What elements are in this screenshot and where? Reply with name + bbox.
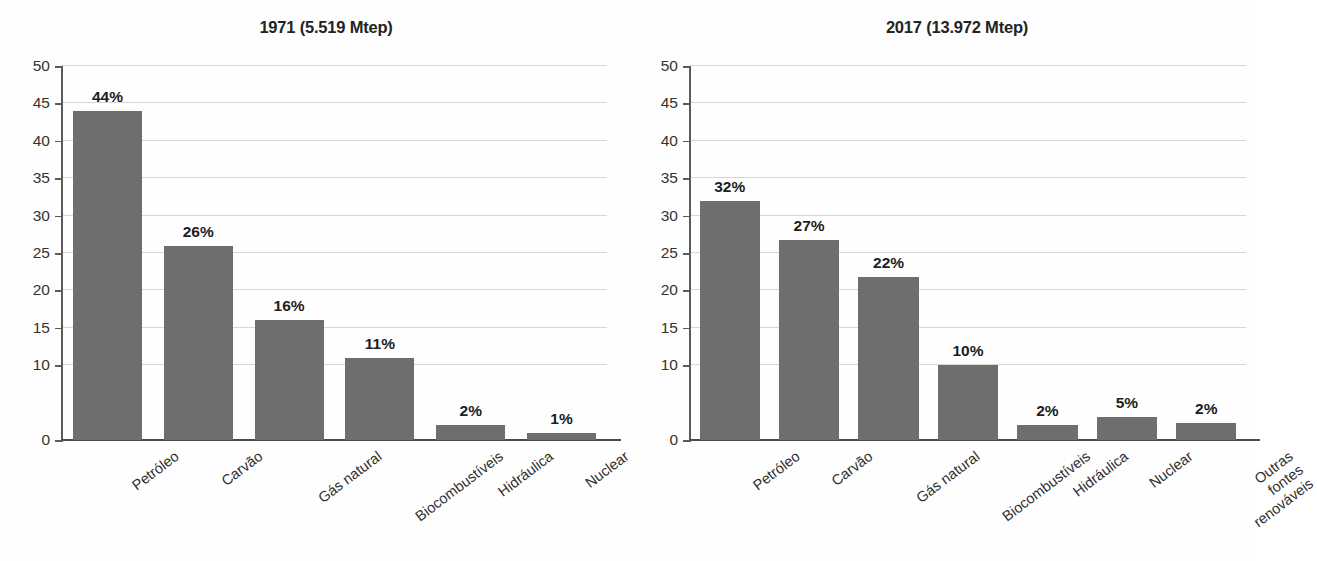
bar[interactable] bbox=[779, 240, 839, 440]
y-axis-tick-label: 45 bbox=[661, 94, 678, 112]
bar-group[interactable]: 26% bbox=[153, 66, 244, 440]
x-axis-category-label: Biocombustíveis bbox=[412, 448, 507, 525]
y-axis-tick-label: 40 bbox=[661, 132, 678, 150]
chart-title: 2017 (13.972 Mtep) bbox=[628, 18, 1256, 37]
bar[interactable] bbox=[436, 425, 505, 440]
bar[interactable] bbox=[255, 320, 324, 440]
bar-value-label: 22% bbox=[849, 254, 928, 272]
bar-group[interactable]: 27% bbox=[769, 66, 848, 440]
y-axis-tick-label: 30 bbox=[33, 207, 50, 225]
bar-group[interactable]: 44% bbox=[62, 66, 153, 440]
bar[interactable] bbox=[1017, 425, 1077, 440]
y-axis-tick-label: 15 bbox=[33, 319, 50, 337]
bar-group[interactable]: 2% bbox=[1008, 66, 1087, 440]
chart-panel-1971: 1971 (5.519 Mtep) 0101520253035404550 44… bbox=[0, 0, 628, 561]
chart-panel-2017: 2017 (13.972 Mtep) 0101520253035404550 3… bbox=[628, 0, 1256, 561]
x-axis-category-label: Gás natural bbox=[315, 448, 385, 507]
x-axis-category-label: Nuclear bbox=[1146, 448, 1196, 492]
bar[interactable] bbox=[858, 277, 918, 440]
y-axis-tick-label: 45 bbox=[33, 94, 50, 112]
bar-group[interactable]: 5% bbox=[1087, 66, 1166, 440]
y-axis-tick-label: 35 bbox=[661, 169, 678, 187]
bar[interactable] bbox=[345, 358, 414, 440]
bar-value-label: 27% bbox=[769, 217, 848, 235]
bar-value-label: 5% bbox=[1087, 394, 1166, 412]
bar[interactable] bbox=[700, 201, 760, 440]
bar[interactable] bbox=[527, 433, 596, 440]
bar-value-label: 16% bbox=[244, 297, 335, 315]
x-axis-category-label: Gás natural bbox=[913, 448, 983, 507]
bar-value-label: 32% bbox=[690, 178, 769, 196]
y-axis-tick-label: 10 bbox=[33, 356, 50, 374]
bar-group[interactable]: 10% bbox=[928, 66, 1007, 440]
bar-value-label: 2% bbox=[1167, 400, 1246, 418]
bar-value-label: 2% bbox=[1008, 402, 1087, 420]
y-axis-tick-label: 20 bbox=[661, 281, 678, 299]
y-axis-tick-label: 30 bbox=[661, 207, 678, 225]
bar-value-label: 11% bbox=[335, 335, 426, 353]
bar[interactable] bbox=[938, 365, 998, 440]
bar-value-label: 2% bbox=[425, 402, 516, 420]
bar-value-label: 26% bbox=[153, 223, 244, 241]
y-axis-tick-label: 0 bbox=[41, 431, 50, 449]
y-axis-tick-label: 10 bbox=[661, 356, 678, 374]
y-axis-tick-label: 15 bbox=[661, 319, 678, 337]
y-axis-tick-label: 40 bbox=[33, 132, 50, 150]
x-axis-category-label: Hidráulica bbox=[495, 448, 557, 500]
bars-layer: 32%27%22%10%2%5%2% bbox=[690, 66, 1246, 440]
bar[interactable] bbox=[1097, 417, 1157, 440]
plot-area: 0101520253035404550 44%26%16%11%2%1% Pet… bbox=[62, 66, 607, 440]
bar-value-label: 1% bbox=[516, 410, 607, 428]
bar-group[interactable]: 11% bbox=[335, 66, 426, 440]
x-axis-category-label: Carvão bbox=[219, 448, 267, 490]
y-axis-tick-label: 0 bbox=[669, 431, 678, 449]
bar-group[interactable]: 2% bbox=[1167, 66, 1246, 440]
x-axis-category-label: Nuclear bbox=[583, 448, 633, 492]
bar-value-label: 44% bbox=[62, 88, 153, 106]
x-axis-category-label: Petróleo bbox=[750, 448, 803, 494]
bar-group[interactable]: 2% bbox=[425, 66, 516, 440]
x-axis-category-label: Outras fontes renováveis bbox=[1230, 448, 1317, 531]
bar[interactable] bbox=[1176, 423, 1236, 440]
chart-title: 1971 (5.519 Mtep) bbox=[0, 18, 628, 37]
bar-group[interactable]: 1% bbox=[516, 66, 607, 440]
x-axis-category-label: Petróleo bbox=[129, 448, 182, 494]
plot-area: 0101520253035404550 32%27%22%10%2%5%2% P… bbox=[690, 66, 1246, 440]
category-labels-layer: PetróleoCarvãoGás naturalBiocombustíveis… bbox=[690, 440, 1246, 560]
bar[interactable] bbox=[73, 111, 142, 440]
y-axis-tick-label: 35 bbox=[33, 169, 50, 187]
y-axis-tick-label: 20 bbox=[33, 281, 50, 299]
category-labels-layer: PetróleoCarvãoGás naturalBiocombustíveis… bbox=[62, 440, 607, 560]
bar-group[interactable]: 22% bbox=[849, 66, 928, 440]
y-axis-tick-label: 25 bbox=[33, 244, 50, 262]
bar-group[interactable]: 32% bbox=[690, 66, 769, 440]
bar[interactable] bbox=[164, 246, 233, 440]
bar-group[interactable]: 16% bbox=[244, 66, 335, 440]
y-axis-tick-label: 50 bbox=[33, 57, 50, 75]
y-axis-tick-label: 50 bbox=[661, 57, 678, 75]
x-axis-category-label: Carvão bbox=[828, 448, 876, 490]
bars-layer: 44%26%16%11%2%1% bbox=[62, 66, 607, 440]
y-axis-tick-label: 25 bbox=[661, 244, 678, 262]
bar-value-label: 10% bbox=[928, 342, 1007, 360]
